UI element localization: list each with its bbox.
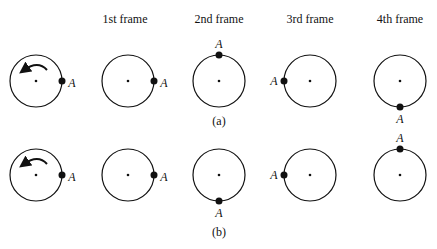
point-label: A: [215, 37, 222, 52]
point-label: A: [68, 76, 75, 91]
header-3rd-frame: 3rd frame: [287, 12, 334, 27]
header-1st-frame: 1st frame: [103, 12, 148, 27]
point-label: A: [160, 170, 167, 185]
caption-b: (b): [212, 225, 226, 240]
point-label: A: [396, 131, 403, 146]
header-2nd-frame: 2nd frame: [195, 12, 244, 27]
point-label: A: [215, 206, 222, 221]
point-label: A: [270, 74, 277, 89]
point-label: A: [396, 112, 403, 127]
point-label: A: [270, 168, 277, 183]
caption-a: (a): [212, 114, 225, 129]
point-label: A: [68, 170, 75, 185]
header-4th-frame: 4th frame: [377, 12, 423, 27]
point-label: A: [160, 76, 167, 91]
